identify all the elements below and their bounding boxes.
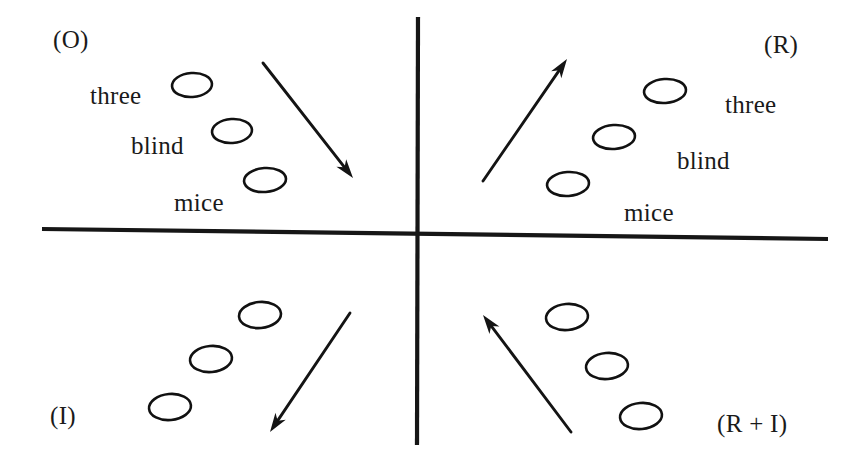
word-label-top-right-three: three	[725, 92, 776, 117]
arrow-head-bottom-left	[270, 413, 286, 432]
mouse-ellipse-top-left-1	[171, 72, 213, 99]
quadrant-label-top-left: (O)	[53, 27, 89, 52]
mouse-ellipse-top-left-3	[243, 167, 287, 194]
arrow-bottom-right	[483, 315, 571, 432]
word-label-top-left-mice: mice	[174, 190, 224, 215]
vertical-axis-line	[417, 17, 418, 445]
axes-group	[42, 17, 828, 445]
arrow-top-left	[263, 63, 353, 178]
mouse-ellipse-top-right-2	[592, 124, 636, 151]
quadrant-label-bottom-right: (R + I)	[717, 411, 787, 436]
quadrant-label-top-right: (R)	[764, 32, 798, 57]
mouse-ellipse-bottom-left-2	[189, 344, 233, 374]
mouse-ellipse-top-right-1	[643, 78, 687, 105]
mouse-ellipse-bottom-right-3	[619, 401, 663, 431]
arrow-shaft-bottom-left	[276, 313, 350, 423]
mouse-ellipse-top-right-3	[546, 171, 590, 198]
mouse-ellipse-bottom-left-1	[238, 300, 282, 330]
mouse-ellipse-bottom-left-3	[148, 392, 192, 422]
arrow-shaft-bottom-right	[489, 323, 571, 432]
quadrant-label-bottom-left: (I)	[50, 403, 76, 428]
arrow-shaft-top-left	[263, 63, 347, 170]
mouse-ellipse-top-left-2	[211, 118, 253, 145]
word-label-top-right-mice: mice	[624, 200, 674, 225]
mouse-ellipse-bottom-right-2	[585, 351, 629, 381]
arrow-top-right	[483, 59, 567, 181]
figure-canvas	[0, 0, 864, 464]
word-label-top-left-three: three	[90, 83, 141, 108]
quadrant-figure: (O)threeblindmice(R)threeblindmice(I)(R …	[0, 0, 864, 464]
arrow-shaft-top-right	[483, 68, 561, 181]
arrow-head-top-right	[551, 59, 567, 78]
word-label-top-right-blind: blind	[677, 148, 730, 173]
mouse-ellipse-bottom-right-1	[545, 302, 589, 332]
horizontal-axis-line	[42, 229, 828, 239]
word-label-top-left-blind: blind	[131, 133, 184, 158]
arrow-head-bottom-right	[483, 315, 499, 334]
arrow-bottom-left	[270, 313, 350, 432]
